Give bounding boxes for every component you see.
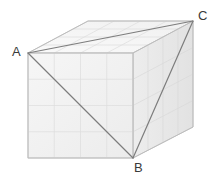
cube-illustration	[0, 0, 221, 184]
geometry-figure: A B C	[0, 0, 221, 184]
vertex-label-b: B	[134, 161, 143, 174]
vertex-label-c: C	[198, 9, 207, 22]
vertex-label-a: A	[12, 45, 21, 58]
